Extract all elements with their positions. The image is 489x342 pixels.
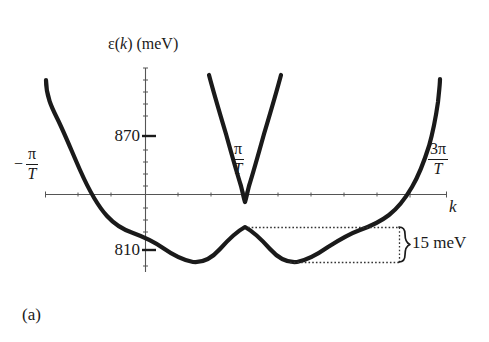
gap-annotation-label: 15 meV <box>412 234 466 251</box>
fraction-numerator: π <box>232 141 244 160</box>
minus-sign: − <box>14 156 26 172</box>
y-axis-title-units: ) (meV) <box>127 35 178 52</box>
figure-panel: ε(k) (meV) 870 810 −πT πT 3πT k 15 meV (… <box>0 0 489 342</box>
upper-band-curve <box>209 75 281 202</box>
fraction-numerator: 3π <box>428 141 448 160</box>
fraction-numerator: π <box>26 146 38 165</box>
fraction-pi-over-t: πT <box>232 141 244 178</box>
y-axis-major-ticks <box>142 136 156 250</box>
x-tick-label-pi-over-t: πT <box>232 141 244 178</box>
fraction-3pi-over-t: 3πT <box>428 141 448 178</box>
x-tick-label-3pi-over-t: 3πT <box>428 141 448 178</box>
fraction-pi-over-t: πT <box>26 146 38 183</box>
panel-label: (a) <box>22 306 41 323</box>
y-axis-title-epsilon: ε( <box>108 35 120 52</box>
x-tick-label-neg-pi-over-t: −πT <box>14 146 38 183</box>
gap-brace-icon <box>399 227 410 262</box>
x-axis-label: k <box>449 198 457 215</box>
dispersion-plot <box>0 0 489 342</box>
y-tick-label-870: 870 <box>98 127 140 144</box>
fraction-denominator: T <box>428 160 448 178</box>
fraction-denominator: T <box>26 165 38 183</box>
y-tick-label-810: 810 <box>98 241 140 258</box>
y-axis-title: ε(k) (meV) <box>108 36 178 52</box>
fraction-denominator: T <box>232 160 244 178</box>
gap-dotted-guides <box>248 228 400 263</box>
